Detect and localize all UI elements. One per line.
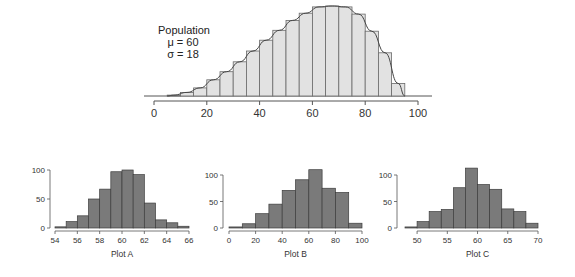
population-x-tick-label: 100: [409, 107, 427, 119]
histogram-bar: [429, 212, 441, 228]
population-x-tick-label: 60: [306, 107, 318, 119]
population-bar: [220, 72, 233, 96]
x-tick-label: 54: [51, 236, 60, 245]
x-tick-label: 80: [331, 236, 340, 245]
population-mean-label: μ = 60: [167, 36, 198, 48]
x-tick-label: 65: [503, 236, 512, 245]
x-tick-label: 64: [162, 236, 171, 245]
population-x-tick-label: 0: [151, 107, 157, 119]
histogram-bar: [77, 216, 88, 228]
population-bar: [273, 30, 286, 96]
histogram-bar: [256, 214, 269, 228]
population-bar: [339, 7, 352, 96]
histogram-bar: [465, 168, 477, 228]
histogram-bar: [526, 223, 538, 228]
x-tick-label: 66: [185, 236, 194, 245]
histogram-bar: [405, 227, 417, 228]
histogram-figure: 020406080100 Population μ = 60 σ = 18 05…: [0, 0, 575, 277]
y-tick-label: 50: [383, 198, 392, 207]
histogram-bar: [349, 223, 362, 228]
x-tick-label: 55: [443, 236, 452, 245]
population-bar: [326, 6, 339, 96]
y-tick-label: 50: [209, 198, 218, 207]
y-tick-label: 100: [32, 166, 46, 175]
population-histogram: 020406080100: [144, 6, 432, 119]
x-tick-label: 60: [304, 236, 313, 245]
histogram-bar: [502, 209, 514, 228]
x-tick-label: 20: [251, 236, 260, 245]
population-bar: [246, 51, 259, 96]
histogram-bar: [66, 222, 77, 228]
histogram-bar: [133, 175, 144, 228]
histogram-bar: [89, 199, 100, 228]
y-tick-label: 100: [379, 171, 393, 180]
x-tick-label: 50: [413, 236, 422, 245]
population-bar: [312, 7, 325, 96]
x-tick-label: 0: [227, 236, 232, 245]
histogram-bar: [441, 209, 453, 228]
histogram-bar: [490, 189, 502, 228]
population-bar: [299, 13, 312, 96]
y-tick-label: 50: [36, 195, 45, 204]
histogram-bar: [122, 170, 133, 228]
plot-title: Plot C: [466, 249, 489, 259]
histogram-bar: [111, 172, 122, 228]
histogram-bar: [453, 188, 465, 228]
population-bar: [286, 20, 299, 96]
population-bar: [352, 14, 365, 96]
plot-a-histogram: 05010054565860626466Plot A: [32, 166, 194, 259]
histogram-bar: [417, 222, 429, 228]
plot-b-histogram: 050100020406080100Plot B: [205, 170, 370, 259]
plot-title: Plot A: [111, 249, 134, 259]
x-tick-label: 70: [534, 236, 543, 245]
histogram-bar: [309, 170, 322, 228]
histogram-bar: [478, 185, 490, 228]
population-label: Population: [158, 24, 210, 36]
histogram-bar: [296, 180, 309, 228]
plot-title: Plot B: [284, 249, 307, 259]
y-tick-label: 0: [388, 224, 393, 233]
y-tick-label: 0: [41, 224, 46, 233]
histogram-bar: [282, 190, 295, 228]
population-bar: [260, 40, 273, 96]
population-x-tick-label: 20: [201, 107, 213, 119]
x-tick-label: 40: [278, 236, 287, 245]
population-bar: [365, 31, 378, 96]
x-tick-label: 60: [473, 236, 482, 245]
y-tick-label: 0: [214, 224, 219, 233]
population-x-tick-label: 80: [359, 107, 371, 119]
y-tick-label: 100: [205, 171, 219, 180]
x-tick-label: 58: [95, 236, 104, 245]
histogram-bar: [514, 212, 526, 228]
histogram-bar: [269, 204, 282, 228]
population-sd-label: σ = 18: [167, 48, 199, 60]
x-tick-label: 56: [73, 236, 82, 245]
histogram-bar: [156, 220, 167, 228]
histogram-bar: [100, 189, 111, 228]
x-tick-label: 62: [140, 236, 149, 245]
histogram-bar: [144, 203, 155, 228]
x-tick-label: 60: [118, 236, 127, 245]
x-tick-label: 100: [355, 236, 369, 245]
histogram-bar: [335, 192, 348, 228]
histogram-bar: [322, 188, 335, 228]
histogram-bar: [242, 224, 255, 228]
histogram-bar: [178, 226, 189, 228]
population-annotation: Population μ = 60 σ = 18: [158, 24, 210, 60]
histogram-bar: [55, 227, 66, 228]
plot-c-histogram: 0501005055606570Plot C: [379, 168, 543, 259]
histogram-bar: [167, 223, 178, 228]
population-x-tick-label: 40: [253, 107, 265, 119]
histogram-bar: [229, 227, 242, 228]
population-bar: [233, 62, 246, 96]
